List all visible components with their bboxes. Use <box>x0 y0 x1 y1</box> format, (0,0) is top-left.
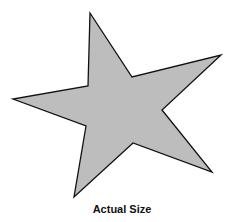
star-icon <box>13 13 221 197</box>
figure-caption: Actual Size <box>0 203 235 215</box>
star-figure <box>0 0 235 222</box>
